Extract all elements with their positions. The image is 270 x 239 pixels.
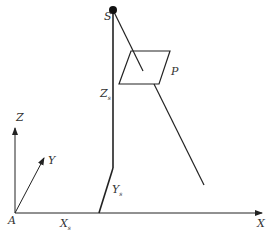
ray-upper: [113, 10, 143, 71]
label-p: P: [170, 65, 179, 78]
ys-segment: [99, 168, 113, 213]
label-x: X: [256, 217, 266, 230]
ray-lower: [154, 84, 204, 185]
label-z: Z: [15, 111, 24, 124]
label-xs: Xs: [59, 217, 71, 231]
plane-p: [119, 51, 170, 84]
label-a: A: [7, 214, 16, 227]
label-y: Y: [48, 154, 57, 167]
diagram-canvas: S P Z Y X A Zs Ys Xs: [0, 0, 270, 239]
label-ys: Ys: [112, 183, 122, 197]
label-s: S: [104, 10, 112, 23]
label-zs: Zs: [99, 87, 111, 101]
y-axis: [15, 158, 44, 213]
